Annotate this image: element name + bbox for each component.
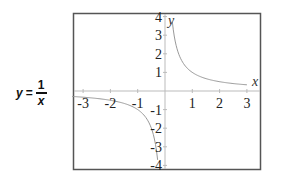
chart: -3-2-11234321-1-2-3-4xy xyxy=(0,0,284,181)
x-tick-label: 3 xyxy=(243,96,250,111)
y-tick-label: -1 xyxy=(150,103,162,118)
y-tick-label: -2 xyxy=(150,121,162,136)
x-tick-label: 1 xyxy=(189,96,196,111)
y-tick-label: 3 xyxy=(155,28,162,43)
y-tick-label: 2 xyxy=(155,47,162,62)
x-tick-label: -3 xyxy=(77,96,89,111)
y-tick-label: 1 xyxy=(155,65,162,80)
y-tick-label: 4 xyxy=(155,10,162,25)
x-axis-label: x xyxy=(251,74,259,89)
x-tick-label: -2 xyxy=(105,96,117,111)
axes xyxy=(74,14,260,169)
y-tick-label: -4 xyxy=(150,158,162,173)
y-axis-label: y xyxy=(166,13,175,28)
x-tick-label: 2 xyxy=(216,96,223,111)
x-tick-label: -1 xyxy=(132,96,144,111)
y-tick-label: -3 xyxy=(150,140,162,155)
curve-positive-branch xyxy=(172,22,247,85)
